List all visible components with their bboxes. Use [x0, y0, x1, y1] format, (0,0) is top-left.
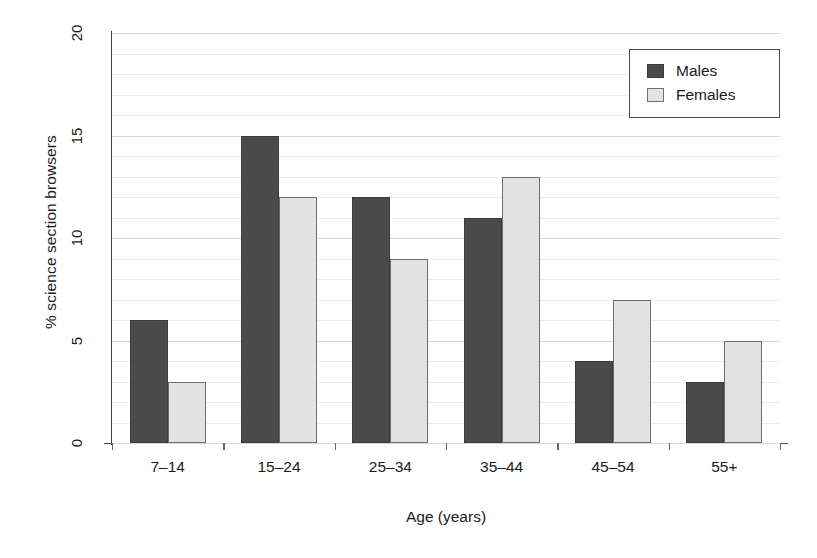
bar-chart-figure: % science section browsers 05101520 7–14… [0, 0, 817, 558]
x-tick-label: 35–44 [480, 458, 523, 476]
x-tick [223, 443, 224, 450]
gridline-minor [112, 382, 780, 383]
males-swatch-icon [647, 64, 664, 78]
bar-males-45-54 [575, 361, 613, 443]
gridline-minor [112, 218, 780, 219]
x-axis-tick-labels: 7–1415–2425–3435–4445–5455+ [112, 458, 780, 484]
x-tick [112, 443, 113, 450]
females-swatch-icon [647, 88, 664, 102]
legend-entry-females: Females [647, 83, 779, 107]
x-tick [557, 443, 558, 450]
bar-males-15-24 [241, 136, 279, 444]
legend-label-females: Females [676, 87, 735, 103]
bar-males-35-44 [464, 218, 502, 444]
legend: Males Females [629, 49, 780, 118]
bar-females-35-44 [502, 177, 540, 444]
x-tick-label: 15–24 [257, 458, 300, 476]
gridline-major [112, 136, 780, 137]
bar-females-7-14 [168, 382, 206, 444]
bar-males-25-34 [352, 197, 390, 443]
gridline-minor [112, 197, 780, 198]
bar-females-15-24 [279, 197, 317, 443]
gridline-major [112, 341, 780, 342]
gridline-minor [112, 279, 780, 280]
gridline-minor [112, 177, 780, 178]
bar-females-55- [724, 341, 762, 444]
y-axis-ticks [0, 0, 112, 558]
gridline-minor [112, 402, 780, 403]
legend-label-males: Males [676, 63, 717, 79]
gridline-minor [112, 300, 780, 301]
bar-males-55- [686, 382, 724, 444]
x-tick-label: 55+ [711, 458, 737, 476]
x-tick [335, 443, 336, 450]
x-tick [669, 443, 670, 450]
gridline-minor [112, 320, 780, 321]
x-tick-label: 45–54 [591, 458, 634, 476]
gridline-minor [112, 156, 780, 157]
x-axis-ticks [0, 443, 817, 453]
gridline-major [112, 33, 780, 34]
bar-males-7-14 [130, 320, 168, 443]
x-tick [780, 443, 781, 450]
bar-females-45-54 [613, 300, 651, 444]
gridline-major [112, 238, 780, 239]
bar-females-25-34 [390, 259, 428, 444]
x-axis-title: Age (years) [112, 508, 780, 526]
x-tick-label: 25–34 [369, 458, 412, 476]
gridline-minor [112, 361, 780, 362]
gridline-minor [112, 423, 780, 424]
x-tick [446, 443, 447, 450]
x-tick-label: 7–14 [150, 458, 184, 476]
gridline-minor [112, 259, 780, 260]
legend-entry-males: Males [647, 59, 779, 83]
